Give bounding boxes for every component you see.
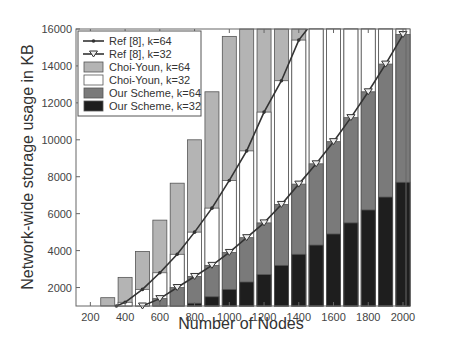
y-axis-title: Network-wide storage usage in KB — [19, 44, 36, 289]
bar — [379, 197, 393, 306]
dot-marker-icon — [92, 39, 96, 43]
dot-marker-icon — [297, 38, 301, 42]
legend-swatch — [84, 75, 103, 85]
dot-marker-icon — [193, 230, 197, 234]
legend-label: Our Scheme, k=32 — [109, 100, 201, 112]
bar — [101, 298, 115, 306]
x-tick-label: 400 — [116, 311, 134, 323]
legend-swatch — [84, 88, 103, 98]
bar — [240, 282, 254, 306]
legend: Ref [8], k=64Ref [8], k=32Choi-Youn, k=6… — [78, 31, 201, 116]
bar — [344, 223, 358, 306]
bar — [309, 245, 323, 306]
legend-label: Ref [8], k=32 — [109, 48, 172, 60]
storage-usage-chart: 200040006000800010000120001400016000 200… — [0, 0, 458, 357]
dot-marker-icon — [262, 110, 266, 114]
legend-label: Choi-Youn, k=64 — [109, 61, 190, 73]
y-tick-label: 12000 — [41, 97, 72, 109]
legend-label: Our Scheme, k=64 — [109, 87, 201, 99]
y-tick-label: 6000 — [48, 208, 72, 220]
x-axis-title: Number of Nodes — [178, 315, 303, 332]
legend-swatch — [84, 101, 103, 111]
dot-marker-icon — [158, 271, 162, 275]
dot-marker-icon — [228, 179, 232, 183]
dot-marker-icon — [141, 288, 145, 292]
dot-marker-icon — [245, 149, 249, 153]
bar — [292, 254, 306, 306]
bar — [257, 275, 271, 306]
bar — [274, 265, 288, 306]
bar — [396, 182, 410, 306]
dot-marker-icon — [175, 252, 179, 256]
y-tick-label: 14000 — [41, 60, 72, 72]
bar — [188, 276, 202, 306]
dot-marker-icon — [280, 79, 284, 83]
y-tick-label: 4000 — [48, 245, 72, 257]
x-tick-label: 1800 — [356, 311, 380, 323]
x-tick-label: 200 — [81, 311, 99, 323]
bar — [205, 297, 219, 306]
legend-swatch — [84, 62, 103, 72]
bar — [361, 210, 375, 306]
x-tick-label: 2000 — [391, 311, 415, 323]
y-tick-label: 2000 — [48, 282, 72, 294]
x-tick-label: 1600 — [321, 311, 345, 323]
y-tick-label: 16000 — [41, 23, 72, 35]
x-tick-label: 600 — [151, 311, 169, 323]
dot-marker-icon — [210, 206, 214, 210]
bar — [327, 234, 341, 306]
y-tick-label: 10000 — [41, 134, 72, 146]
legend-label: Choi-Youn, k=32 — [109, 74, 190, 86]
y-axis-ticks: 200040006000800010000120001400016000 — [41, 23, 80, 294]
y-tick-label: 8000 — [48, 171, 72, 183]
legend-label: Ref [8], k=64 — [109, 35, 172, 47]
